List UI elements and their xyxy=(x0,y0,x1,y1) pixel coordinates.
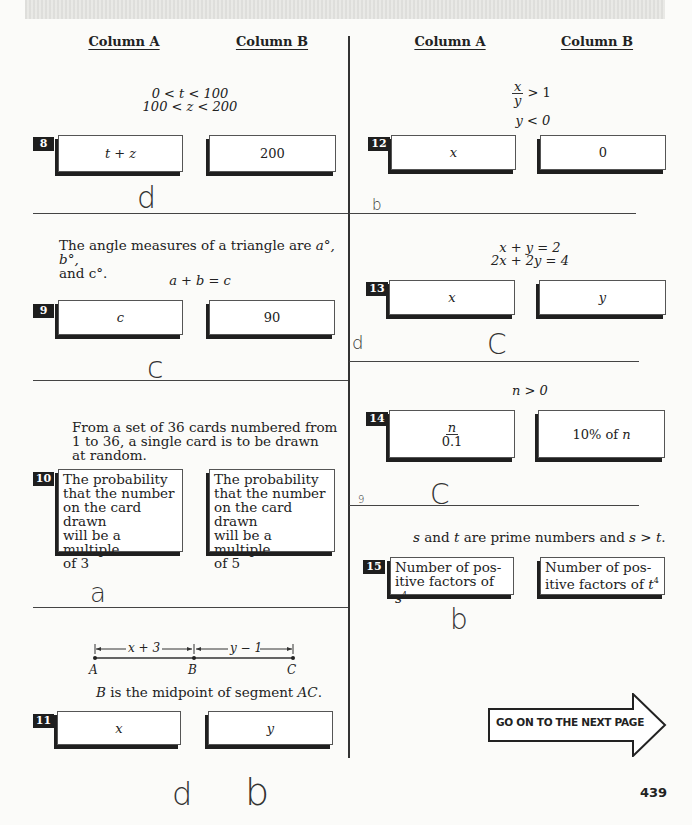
segment-bc-label: y − 1 xyxy=(230,641,262,655)
q15-number-badge: 15 xyxy=(363,560,385,574)
next-page-label: GO ON TO THE NEXT PAGE xyxy=(496,716,646,728)
left-rule-3 xyxy=(33,607,348,608)
right-rule-3 xyxy=(349,505,639,506)
q11-given-text: B is the midpoint of segment AC. xyxy=(96,685,346,699)
q14-column-a-box[interactable]: n0.1 xyxy=(389,410,515,458)
q10-column-a-box[interactable]: The probability that the number on the c… xyxy=(58,469,183,552)
q12-column-a-box[interactable]: x xyxy=(391,135,516,170)
q13-column-b-box[interactable]: y xyxy=(539,280,666,315)
q14-column-a-fraction: n0.1 xyxy=(442,421,463,448)
page-number: 439 xyxy=(640,785,667,800)
q15-column-a-box[interactable]: Number of pos- itive factors of s4 xyxy=(390,557,514,595)
segment-ac-diagram xyxy=(88,640,303,665)
point-c-label: C xyxy=(287,663,296,677)
q11-column-a-box[interactable]: x xyxy=(57,711,181,745)
page-top-band xyxy=(25,0,665,19)
q10-given-text: From a set of 36 cards numbered from 1 t… xyxy=(72,420,342,462)
q9-column-a-box[interactable]: c xyxy=(58,300,183,335)
q14-handwritten-side: 9 xyxy=(358,494,364,505)
column-divider xyxy=(348,36,350,758)
q12-column-b-box[interactable]: 0 xyxy=(540,135,666,170)
q9-number-badge: 9 xyxy=(33,304,54,318)
q10-handwritten-answer: a xyxy=(90,578,106,608)
q14-handwritten-answer: C xyxy=(430,478,450,511)
q11-handwritten-extra: b xyxy=(245,770,269,814)
left-column-a-header: Column A xyxy=(74,34,174,49)
q11-number-badge: 11 xyxy=(33,714,54,728)
q12-handwritten-answer: b xyxy=(372,196,382,214)
q13-column-a-box[interactable]: x xyxy=(389,280,515,315)
q15-handwritten-answer: b xyxy=(450,603,468,636)
q8-given-2: 100 < z < 200 xyxy=(130,99,250,114)
q13-number-badge: 13 xyxy=(366,282,388,296)
left-rule-1 xyxy=(33,213,348,214)
q15-given-text: s and t are prime numbers and s > t. xyxy=(413,530,692,544)
q13-handwritten-side: d xyxy=(352,332,363,353)
q8-handwritten-answer: d xyxy=(137,180,156,215)
point-a-label: A xyxy=(89,663,98,677)
q9-column-b-box[interactable]: 90 xyxy=(209,300,335,335)
q8-number-badge: 8 xyxy=(33,137,54,151)
q10-column-b-box[interactable]: The probability that the number on the c… xyxy=(209,469,335,552)
left-rule-2 xyxy=(33,380,348,381)
next-page-arrow[interactable]: GO ON TO THE NEXT PAGE xyxy=(488,693,692,757)
right-column-b-header: Column B xyxy=(547,34,647,49)
q8-column-b-box[interactable]: 200 xyxy=(209,135,336,172)
left-column-b-header: Column B xyxy=(222,34,322,49)
right-column-a-header: Column A xyxy=(400,34,500,49)
q8-column-a-box[interactable]: t + z xyxy=(58,135,183,172)
q12-given-2: y < 0 xyxy=(508,113,558,128)
q9-given-equation: a + b = c xyxy=(160,273,240,288)
q15-column-b-box[interactable]: Number of pos- itive factors of t4 xyxy=(540,557,665,595)
q11-column-b-box[interactable]: y xyxy=(208,711,333,745)
q14-given: n > 0 xyxy=(505,383,555,398)
q14-number-badge: 14 xyxy=(366,412,388,426)
q9-handwritten-answer: c xyxy=(147,350,164,385)
q10-number-badge: 10 xyxy=(33,472,54,486)
q13-given-2: 2x + 2y = 4 xyxy=(480,253,580,268)
right-rule-1 xyxy=(349,213,636,214)
q12-given-fraction: xy > 1 xyxy=(512,80,551,107)
q11-handwritten-answer: d xyxy=(172,775,192,813)
q12-number-badge: 12 xyxy=(368,137,390,151)
right-rule-2 xyxy=(349,361,639,362)
point-b-label: B xyxy=(188,663,197,677)
q13-handwritten-answer: C xyxy=(487,328,507,361)
q14-column-b-box[interactable]: 10% of n xyxy=(538,410,665,458)
segment-ab-label: x + 3 xyxy=(128,641,160,655)
